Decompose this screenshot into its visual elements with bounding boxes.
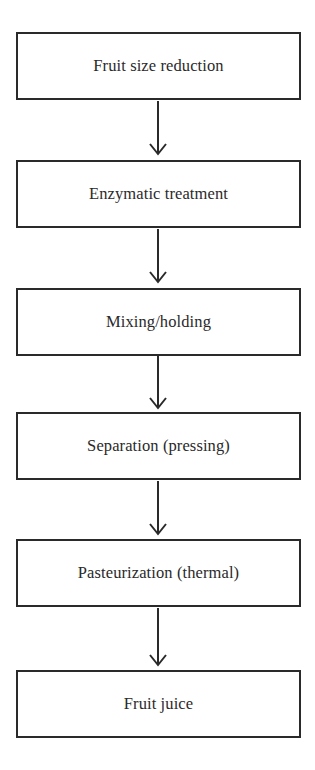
step-box-separation-pressing: Separation (pressing) <box>16 412 301 480</box>
arrow-down-icon <box>146 481 170 539</box>
step-label: Enzymatic treatment <box>89 184 228 204</box>
step-label: Mixing/holding <box>106 312 211 332</box>
step-label: Fruit size reduction <box>93 56 223 76</box>
step-box-fruit-juice: Fruit juice <box>16 670 301 738</box>
arrow-down-icon <box>146 101 170 159</box>
arrow-down-icon <box>146 608 170 670</box>
arrow-down-icon <box>146 229 170 287</box>
step-label: Pasteurization (thermal) <box>78 563 239 583</box>
step-box-mixing-holding: Mixing/holding <box>16 288 301 356</box>
step-label: Separation (pressing) <box>87 436 230 456</box>
step-label: Fruit juice <box>124 694 193 714</box>
step-box-pasteurization-thermal: Pasteurization (thermal) <box>16 539 301 607</box>
arrow-down-icon <box>146 356 170 412</box>
step-box-enzymatic-treatment: Enzymatic treatment <box>16 160 301 228</box>
step-box-fruit-size-reduction: Fruit size reduction <box>16 32 301 100</box>
